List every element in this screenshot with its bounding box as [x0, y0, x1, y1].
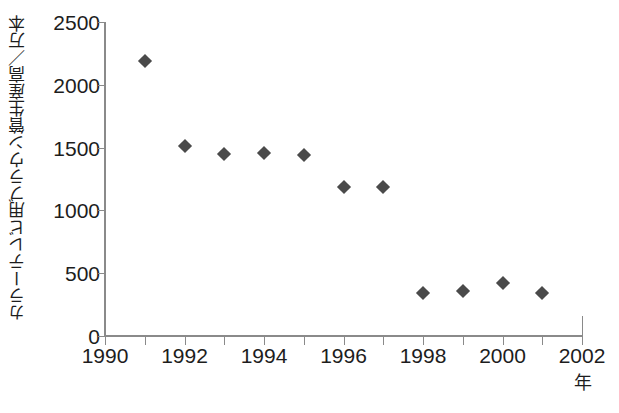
x-axis-tick-label: 2002	[559, 345, 606, 366]
x-axis-tick-label: 1990	[82, 345, 129, 366]
data-point-marker	[177, 139, 191, 153]
scatter-chart: カラーテレビ用ブラウン管生産高／万本 05001000150020002500 …	[0, 0, 619, 413]
x-axis-tick	[383, 337, 384, 345]
y-axis-line	[104, 22, 106, 337]
data-point-marker	[217, 147, 231, 161]
x-axis-tick-labels: 1990199219941996199820002002	[0, 345, 619, 375]
y-axis-tick-label: 1000	[53, 200, 100, 221]
x-axis-tick	[224, 337, 225, 345]
y-axis-tick-label: 1500	[53, 137, 100, 158]
y-axis-tick	[98, 22, 105, 23]
y-axis-tick	[98, 210, 105, 211]
x-axis-tick-label: 1994	[241, 345, 288, 366]
x-axis-tick-label: 1996	[320, 345, 367, 366]
y-axis-tick-label: 2500	[53, 12, 100, 33]
x-axis-tick-label: 1992	[161, 345, 208, 366]
data-point-marker	[297, 147, 311, 161]
data-point-marker	[257, 146, 271, 160]
y-axis-tick-labels: 05001000150020002500	[36, 0, 100, 360]
data-point-marker	[138, 54, 152, 68]
y-axis-tick	[98, 148, 105, 149]
y-axis-tick-label: 2000	[53, 74, 100, 95]
data-point-marker	[535, 286, 549, 300]
x-axis-tick	[463, 337, 464, 345]
x-axis-tick	[304, 337, 305, 345]
y-axis-tick-label: 500	[65, 263, 100, 284]
data-point-marker	[495, 276, 509, 290]
y-axis-tick	[98, 273, 105, 274]
data-point-marker	[456, 284, 470, 298]
data-point-marker	[336, 180, 350, 194]
x-axis-tick-label: 2000	[479, 345, 526, 366]
x-axis-right-cap	[582, 316, 583, 336]
x-axis-tick	[145, 337, 146, 345]
y-axis-tick	[98, 85, 105, 86]
data-point-marker	[376, 179, 390, 193]
x-axis-tick-label: 1998	[400, 345, 447, 366]
y-axis-title: カラーテレビ用ブラウン管生産高／万本	[0, 0, 34, 336]
data-point-marker	[416, 286, 430, 300]
y-axis-title-text: カラーテレビ用ブラウン管生産高／万本	[9, 15, 26, 321]
x-axis-unit-label: 年	[574, 374, 592, 392]
x-axis-tick	[542, 337, 543, 345]
y-axis-tick	[98, 336, 105, 337]
